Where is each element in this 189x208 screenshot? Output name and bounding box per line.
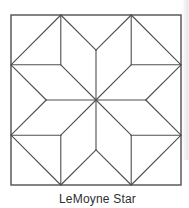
star-seam-line: [146, 65, 181, 100]
star-seam-line: [131, 135, 181, 185]
star-seam-line: [11, 135, 61, 185]
star-seam-line: [11, 15, 61, 65]
star-seam-lines: [11, 15, 181, 185]
lemoyne-star-diagram: [0, 0, 189, 208]
star-seam-line: [61, 100, 96, 135]
star-seam-line: [11, 65, 46, 100]
star-seam-line: [11, 100, 46, 135]
caption: LeMoyne Star: [3, 192, 189, 206]
star-seam-line: [131, 15, 181, 65]
star-seam-line: [61, 150, 96, 185]
star-seam-line: [61, 65, 96, 100]
star-seam-line: [61, 15, 96, 50]
quilt-block-figure: LeMoyne Star: [0, 0, 189, 208]
star-seam-line: [96, 15, 131, 50]
star-seam-line: [96, 65, 131, 100]
star-seam-line: [96, 150, 131, 185]
star-seam-line: [96, 100, 131, 135]
star-seam-line: [146, 100, 181, 135]
